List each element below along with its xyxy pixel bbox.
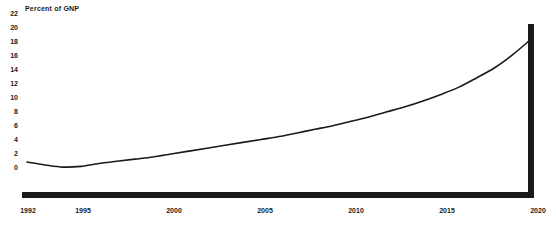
x-tick-label-2000: 2000 [166, 207, 182, 215]
chart-container: Percent of GNP 22 20 18 16 14 12 10 8 6 … [0, 0, 556, 226]
x-tick-label-2005: 2005 [257, 207, 273, 215]
x-axis-baseline [22, 192, 534, 198]
x-tick-label-2020: 2020 [530, 207, 546, 215]
x-tick-label-2015: 2015 [439, 207, 455, 215]
terminal-vertical-drop [528, 24, 534, 198]
series-line-percent-of-gnp [27, 39, 531, 167]
x-tick-label-2010: 2010 [348, 207, 364, 215]
x-tick-label-1995: 1995 [75, 207, 91, 215]
x-tick-label-1992: 1992 [20, 207, 36, 215]
